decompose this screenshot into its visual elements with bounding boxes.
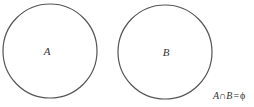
formula-eq: = [233,90,239,101]
set-a-label: A [43,45,51,57]
set-b-label: B [163,46,170,58]
intersection-formula: A∩B=ϕ [212,90,245,101]
formula-right: B [226,90,232,101]
formula-result: ϕ [240,90,245,101]
venn-diagram: A B A∩B=ϕ [0,0,254,107]
formula-op: ∩ [219,90,226,101]
